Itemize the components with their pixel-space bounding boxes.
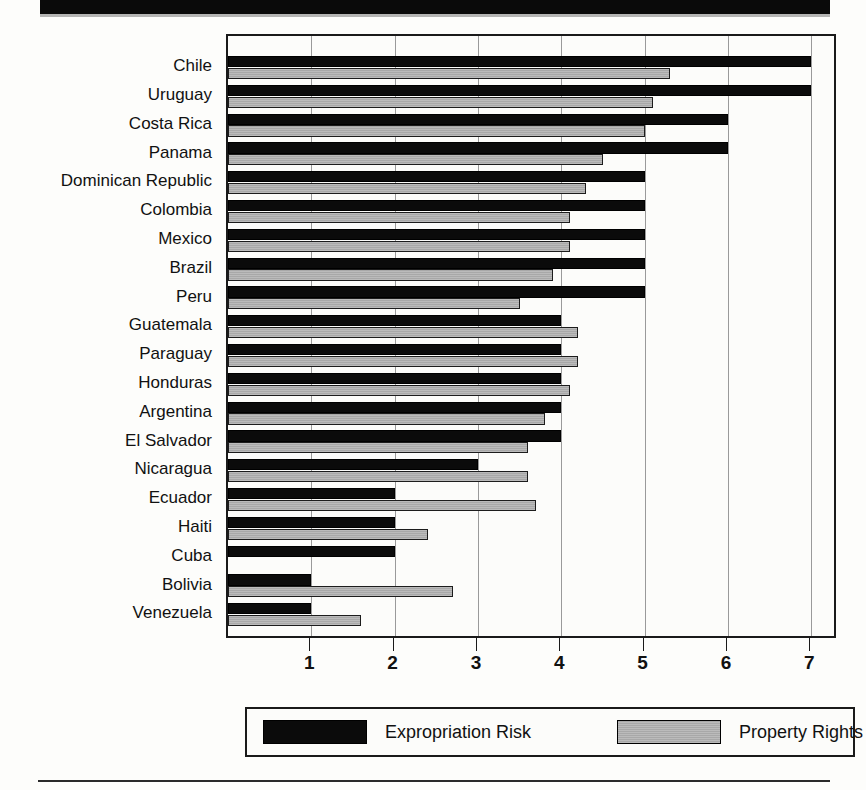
- top-rule-shadow: [40, 14, 830, 17]
- bar-property-rights: [228, 471, 528, 482]
- bar-property-rights: [228, 586, 453, 597]
- top-rule: [40, 0, 830, 14]
- bar-row: [228, 229, 834, 252]
- category-label: Chile: [173, 57, 212, 74]
- category-axis-labels: ChileUruguayCosta RicaPanamaDominican Re…: [0, 34, 220, 638]
- bar-expropriation-risk: [228, 430, 561, 441]
- bar-expropriation-risk: [228, 315, 561, 326]
- category-label: Dominican Republic: [61, 172, 212, 189]
- bar-expropriation-risk: [228, 142, 728, 153]
- chart-legend: Expropriation Risk Property Rights: [245, 707, 855, 757]
- bar-expropriation-risk: [228, 459, 478, 470]
- bar-row: [228, 200, 834, 223]
- bar-row: [228, 315, 834, 338]
- x-tick-5: [643, 638, 644, 651]
- bar-row: [228, 286, 834, 309]
- bar-property-rights: [228, 298, 520, 309]
- legend-swatch-black: [263, 720, 367, 744]
- legend-entry-expropriation-risk: Expropriation Risk: [263, 720, 531, 744]
- category-label: Cuba: [171, 547, 212, 564]
- bar-expropriation-risk: [228, 344, 561, 355]
- bar-property-rights: [228, 97, 653, 108]
- x-tick-6: [726, 638, 727, 651]
- x-axis: 1234567: [226, 638, 836, 678]
- bar-row: [228, 142, 834, 165]
- bar-property-rights: [228, 327, 578, 338]
- bar-row: [228, 459, 834, 482]
- bar-row: [228, 574, 834, 597]
- bar-expropriation-risk: [228, 574, 311, 585]
- category-label: Venezuela: [133, 604, 212, 621]
- category-label: Nicaragua: [135, 460, 213, 477]
- bar-expropriation-risk: [228, 286, 645, 297]
- bar-expropriation-risk: [228, 517, 395, 528]
- bar-row: [228, 430, 834, 453]
- bar-property-rights: [228, 183, 586, 194]
- bar-row: [228, 56, 834, 79]
- bar-row: [228, 517, 834, 540]
- bar-row: [228, 258, 834, 281]
- bar-property-rights: [228, 68, 670, 79]
- bar-expropriation-risk: [228, 373, 561, 384]
- bar-row: [228, 373, 834, 396]
- x-tick-4: [559, 638, 560, 651]
- bar-expropriation-risk: [228, 56, 811, 67]
- x-tick-7: [809, 638, 810, 651]
- plot-area: [226, 34, 836, 638]
- x-tick-label-3: 3: [471, 652, 482, 674]
- bar-row: [228, 344, 834, 367]
- bar-property-rights: [228, 356, 578, 367]
- category-label: El Salvador: [125, 432, 212, 449]
- x-tick-label-4: 4: [554, 652, 565, 674]
- legend-swatch-gray: [617, 720, 721, 744]
- bar-row: [228, 85, 834, 108]
- bar-row: [228, 114, 834, 137]
- bar-row: [228, 603, 834, 626]
- category-label: Mexico: [158, 230, 212, 247]
- category-label: Honduras: [138, 374, 212, 391]
- bar-property-rights: [228, 413, 545, 424]
- category-label: Uruguay: [148, 86, 212, 103]
- bar-expropriation-risk: [228, 402, 561, 413]
- bar-row: [228, 402, 834, 425]
- bar-row: [228, 488, 834, 511]
- bar-row: [228, 171, 834, 194]
- category-label: Colombia: [140, 201, 212, 218]
- bar-property-rights: [228, 154, 603, 165]
- category-label: Paraguay: [139, 345, 212, 362]
- category-label: Brazil: [169, 259, 212, 276]
- x-tick-2: [393, 638, 394, 651]
- category-label: Panama: [149, 144, 212, 161]
- bar-expropriation-risk: [228, 114, 728, 125]
- bar-expropriation-risk: [228, 171, 645, 182]
- x-tick-label-1: 1: [304, 652, 315, 674]
- legend-entry-property-rights: Property Rights: [617, 720, 863, 744]
- category-label: Ecuador: [149, 489, 212, 506]
- bar-property-rights: [228, 615, 361, 626]
- category-label: Guatemala: [129, 316, 212, 333]
- bar-expropriation-risk: [228, 488, 395, 499]
- bar-expropriation-risk: [228, 258, 645, 269]
- category-label: Peru: [176, 288, 212, 305]
- x-tick-label-5: 5: [637, 652, 648, 674]
- bar-expropriation-risk: [228, 603, 311, 614]
- bar-row: [228, 546, 834, 569]
- bar-property-rights: [228, 212, 570, 223]
- category-label: Costa Rica: [129, 115, 212, 132]
- bar-expropriation-risk: [228, 85, 811, 96]
- bar-property-rights: [228, 529, 428, 540]
- x-tick-label-2: 2: [387, 652, 398, 674]
- bar-property-rights: [228, 500, 536, 511]
- bar-expropriation-risk: [228, 546, 395, 557]
- bar-property-rights: [228, 125, 645, 136]
- bar-property-rights: [228, 241, 570, 252]
- bar-property-rights: [228, 385, 570, 396]
- legend-label-property-rights: Property Rights: [739, 722, 863, 743]
- bar-rows: [228, 36, 834, 636]
- bar-property-rights: [228, 442, 528, 453]
- x-tick-3: [476, 638, 477, 651]
- bar-expropriation-risk: [228, 200, 645, 211]
- category-label: Haiti: [178, 518, 212, 535]
- category-label: Argentina: [139, 403, 212, 420]
- x-tick-label-6: 6: [721, 652, 732, 674]
